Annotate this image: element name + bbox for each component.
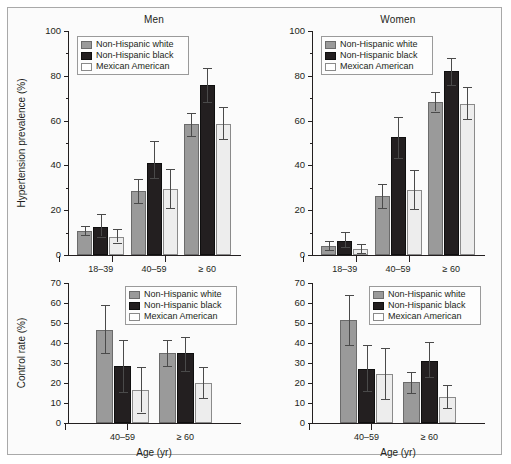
legend-swatch-mexican-american-icon	[373, 313, 384, 321]
legend-row-women-control-rate-0: Non-Hispanic white	[373, 289, 476, 300]
y-tick-label-women-control-rate-0: 0	[272, 417, 305, 428]
error-bar-women-control-rate-0-2	[385, 348, 386, 399]
error-bar-women-control-rate-1-2	[447, 385, 448, 408]
error-cap-top-women-control-rate-0-1	[363, 345, 372, 346]
y-tick-women-control-rate-70	[308, 283, 313, 284]
error-bar-women-control-rate-1-1	[429, 342, 430, 377]
legend-swatch-non-hispanic-white-icon	[373, 291, 384, 299]
legend-row-women-control-rate-2: Mexican American	[373, 311, 476, 322]
y-tick-label-women-control-rate-50: 50	[272, 317, 305, 328]
y-tick-women-control-rate-60	[308, 303, 313, 304]
error-cap-bottom-women-control-rate-0-1	[363, 391, 372, 392]
y-tick-label-women-control-rate-70: 70	[272, 277, 305, 288]
error-bar-women-control-rate-0-1	[367, 345, 368, 391]
y-tick-women-control-rate-30	[308, 363, 313, 364]
error-cap-bottom-women-control-rate-0-2	[381, 399, 390, 400]
chart-panel-women-control-rate: 01020304050607040–59≥ 60Age (yr)Non-Hisp…	[0, 0, 511, 464]
error-cap-top-women-control-rate-1-2	[443, 385, 452, 386]
legend-label-women-control-rate-0: Non-Hispanic white	[388, 289, 466, 300]
x-tick-label-women-control-rate-1: ≥ 60	[384, 432, 474, 442]
legend-label-women-control-rate-2: Mexican American	[388, 311, 462, 322]
legend-swatch-non-hispanic-black-icon	[373, 302, 384, 310]
x-axis-line-women-control-rate	[312, 423, 485, 424]
error-cap-top-women-control-rate-1-0	[407, 372, 416, 373]
error-cap-bottom-women-control-rate-0-0	[345, 345, 354, 346]
legend-row-women-control-rate-1: Non-Hispanic black	[373, 300, 476, 311]
x-axis-title-women-control-rate: Age (yr)	[312, 447, 484, 458]
legend-women-control-rate: Non-Hispanic whiteNon-Hispanic blackMexi…	[369, 286, 481, 325]
error-cap-bottom-women-control-rate-1-0	[407, 393, 416, 394]
y-tick-women-control-rate-40	[308, 343, 313, 344]
y-tick-label-women-control-rate-60: 60	[272, 297, 305, 308]
legend-label-women-control-rate-1: Non-Hispanic black	[388, 300, 466, 311]
x-tick-women-control-rate-0	[309, 424, 310, 430]
error-cap-top-women-control-rate-0-2	[381, 348, 390, 349]
y-tick-women-control-rate-10	[308, 403, 313, 404]
y-tick-label-women-control-rate-20: 20	[272, 377, 305, 388]
error-cap-top-women-control-rate-0-0	[345, 295, 354, 296]
error-cap-bottom-women-control-rate-1-2	[443, 408, 452, 409]
error-bar-women-control-rate-0-0	[349, 295, 350, 345]
x-tick-women-control-rate-1	[371, 424, 372, 430]
y-tick-label-women-control-rate-40: 40	[272, 337, 305, 348]
y-tick-women-control-rate-50	[308, 323, 313, 324]
y-tick-label-women-control-rate-30: 30	[272, 357, 305, 368]
y-tick-label-women-control-rate-10: 10	[272, 397, 305, 408]
figure-root: Men02040608010018–3940–59≥ 60Hypertensio…	[0, 0, 511, 464]
error-cap-bottom-women-control-rate-1-1	[425, 377, 434, 378]
error-cap-top-women-control-rate-1-1	[425, 342, 434, 343]
y-tick-women-control-rate-20	[308, 383, 313, 384]
error-bar-women-control-rate-1-0	[411, 372, 412, 394]
